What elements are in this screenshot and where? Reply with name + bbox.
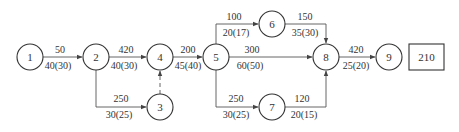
edge-5-7-bottom: 30(25) — [223, 109, 250, 121]
node-4-label: 4 — [157, 51, 163, 63]
edge-2-4-top: 420 — [119, 44, 134, 55]
node-2-label: 2 — [93, 51, 99, 63]
node-3-label: 3 — [157, 101, 163, 113]
edge-7-8-bottom: 20(15) — [291, 109, 318, 121]
node-1-label: 1 — [27, 51, 33, 63]
edge-5-6-top: 100 — [227, 11, 242, 22]
edge-1-2-top: 50 — [55, 44, 65, 55]
edge-7-8-top: 120 — [295, 93, 310, 104]
edge-1-2-bottom: 40(30) — [45, 60, 72, 72]
edge-8-9-top: 420 — [349, 44, 364, 55]
edge-5-6-bottom: 20(17) — [223, 27, 250, 39]
edge-4-5-bottom: 45(40) — [175, 60, 202, 72]
node-8-label: 8 — [323, 51, 329, 63]
edge-5-8-top: 300 — [245, 44, 260, 55]
edge-8-9-bottom: 25(20) — [343, 60, 370, 72]
edge-6-8-bottom: 35(30) — [292, 27, 319, 39]
node-9-label: 9 — [386, 51, 392, 63]
edge-2-3-top: 250 — [114, 93, 129, 104]
node-6-label: 6 — [269, 18, 275, 30]
end-box-label: 210 — [418, 51, 435, 63]
edge-5-8-bottom: 60(50) — [237, 60, 264, 72]
node-7-label: 7 — [269, 101, 275, 113]
edge-6-8-top: 150 — [298, 11, 313, 22]
edge-2-4-bottom: 40(30) — [111, 60, 138, 72]
edge-4-5-top: 200 — [181, 44, 196, 55]
edge-2-3-bottom: 30(25) — [106, 109, 133, 121]
network-diagram: 1 2 3 4 5 6 7 8 9 210 50 40(30) 420 40(3… — [0, 0, 459, 132]
node-5-label: 5 — [213, 51, 219, 63]
edge-5-7-top: 250 — [229, 93, 244, 104]
